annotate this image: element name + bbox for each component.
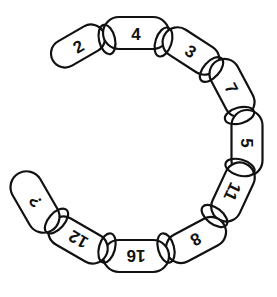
chain-links: 243751181612? — [5, 17, 263, 272]
chain-link: ? — [5, 165, 66, 238]
link-number: 16 — [127, 246, 146, 265]
link-number: 4 — [131, 25, 141, 44]
link-number: 5 — [237, 138, 256, 147]
number-chain-diagram: 243751181612? — [0, 0, 277, 297]
chain-link: 11 — [206, 158, 259, 227]
